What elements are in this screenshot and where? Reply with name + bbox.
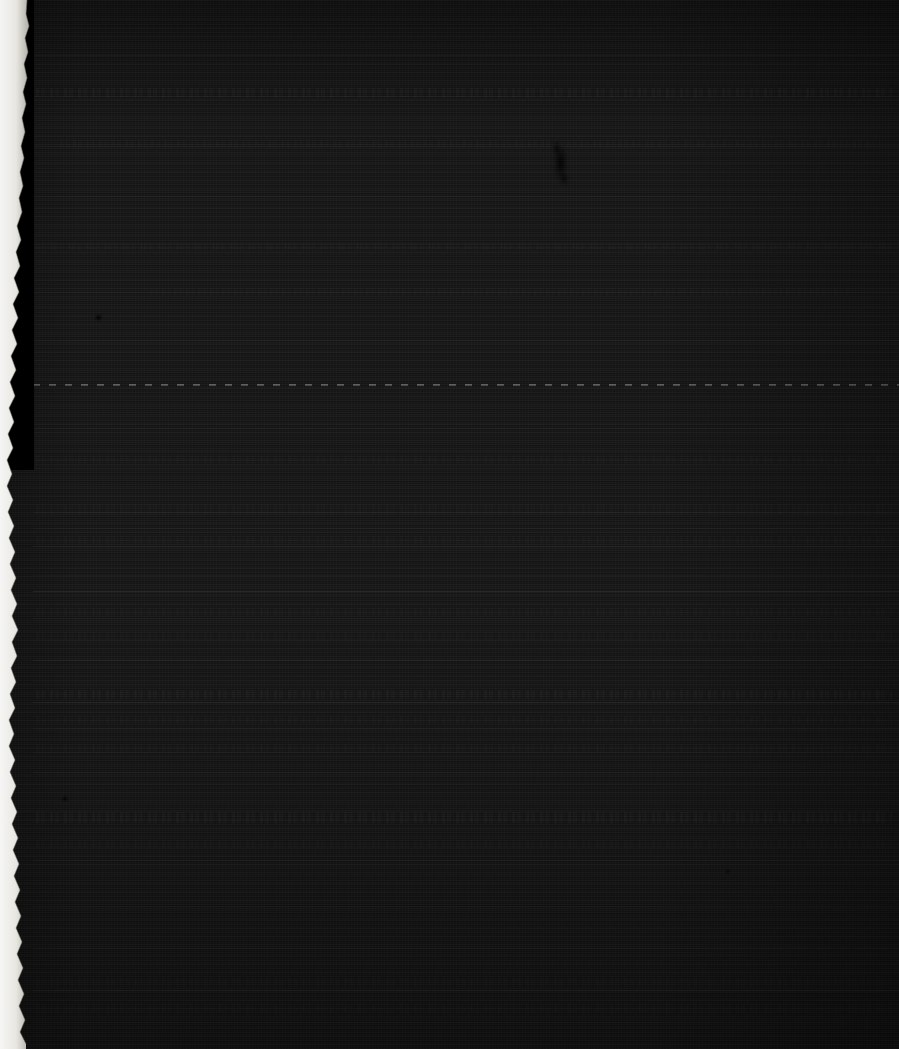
document-photo-canvas: Severely underexposed photograph of a ru… (0, 0, 899, 1049)
document-page-surface (0, 0, 899, 1049)
